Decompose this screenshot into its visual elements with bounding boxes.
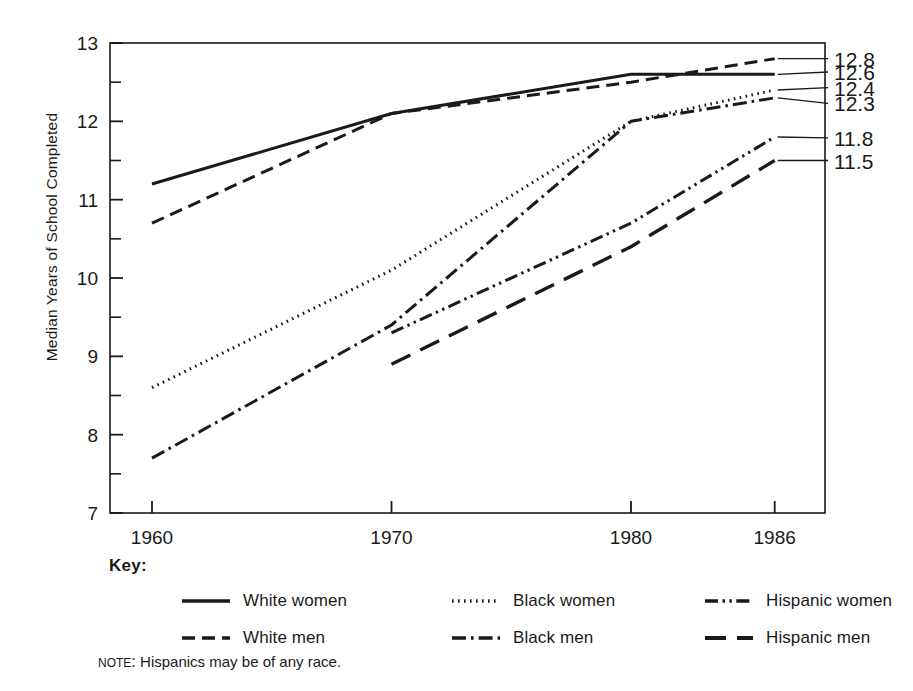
legend-item-black-women[interactable]: Black women bbox=[399, 591, 664, 611]
chart-canvas: 78910111213196019701980198612.812.612.41… bbox=[0, 0, 913, 560]
legend-label: Hispanic women bbox=[766, 591, 892, 611]
line-chart-figure: Median Years of School Completed 7891011… bbox=[0, 0, 913, 560]
legend-label: White men bbox=[243, 628, 325, 648]
y-tick-label: 12 bbox=[77, 111, 98, 132]
legend-row: White women Black women Hispanic women bbox=[109, 582, 899, 619]
series-line bbox=[152, 74, 775, 184]
legend-swatch-long-dash bbox=[704, 631, 754, 645]
legend-swatch-dashed bbox=[181, 631, 231, 645]
legend-item-white-men[interactable]: White men bbox=[109, 628, 399, 648]
legend-swatch-solid bbox=[181, 594, 231, 608]
x-tick-label: 1980 bbox=[610, 527, 652, 548]
x-tick-label: 1986 bbox=[754, 527, 796, 548]
legend-label: Black women bbox=[513, 591, 615, 611]
series-line bbox=[152, 90, 775, 388]
series-line bbox=[152, 98, 775, 458]
legend-grid: White women Black women Hispanic women W… bbox=[109, 582, 899, 656]
legend-swatch-dash-dot-dot bbox=[704, 594, 754, 608]
x-tick-label: 1970 bbox=[370, 527, 412, 548]
legend-label: Black men bbox=[513, 628, 593, 648]
series-end-value-label: 11.8 bbox=[834, 127, 873, 150]
legend-item-hispanic-women[interactable]: Hispanic women bbox=[664, 591, 899, 611]
series-line bbox=[152, 59, 775, 224]
legend-swatch-dash-dot bbox=[451, 631, 501, 645]
y-tick-label: 7 bbox=[87, 503, 98, 524]
series-line bbox=[392, 137, 775, 333]
legend-label: Hispanic men bbox=[766, 628, 870, 648]
chart-key: Key: White women Black women Hispanic wo… bbox=[0, 552, 913, 691]
chart-page: Median Years of School Completed 7891011… bbox=[0, 0, 913, 691]
y-tick-label: 13 bbox=[77, 33, 98, 54]
y-tick-label: 11 bbox=[78, 190, 98, 211]
chart-note: Note: Hispanics may be of any race. bbox=[98, 652, 341, 671]
y-tick-label: 9 bbox=[87, 346, 98, 367]
series-line bbox=[392, 161, 775, 365]
key-title: Key: bbox=[109, 556, 147, 576]
legend-item-black-men[interactable]: Black men bbox=[399, 628, 664, 648]
series-end-value-label: 11.5 bbox=[834, 150, 873, 173]
legend-item-hispanic-men[interactable]: Hispanic men bbox=[664, 628, 899, 648]
y-tick-label: 10 bbox=[77, 268, 98, 289]
legend-item-white-women[interactable]: White women bbox=[109, 591, 399, 611]
note-text: Hispanics may be of any race. bbox=[140, 653, 341, 670]
note-kicker: Note: bbox=[98, 652, 136, 670]
legend-swatch-dotted bbox=[451, 594, 501, 608]
legend-row: White men Black men Hispanic men bbox=[109, 619, 899, 656]
y-tick-label: 8 bbox=[87, 425, 98, 446]
x-tick-label: 1960 bbox=[131, 527, 173, 548]
legend-label: White women bbox=[243, 591, 347, 611]
series-end-value-label: 12.3 bbox=[834, 92, 875, 115]
